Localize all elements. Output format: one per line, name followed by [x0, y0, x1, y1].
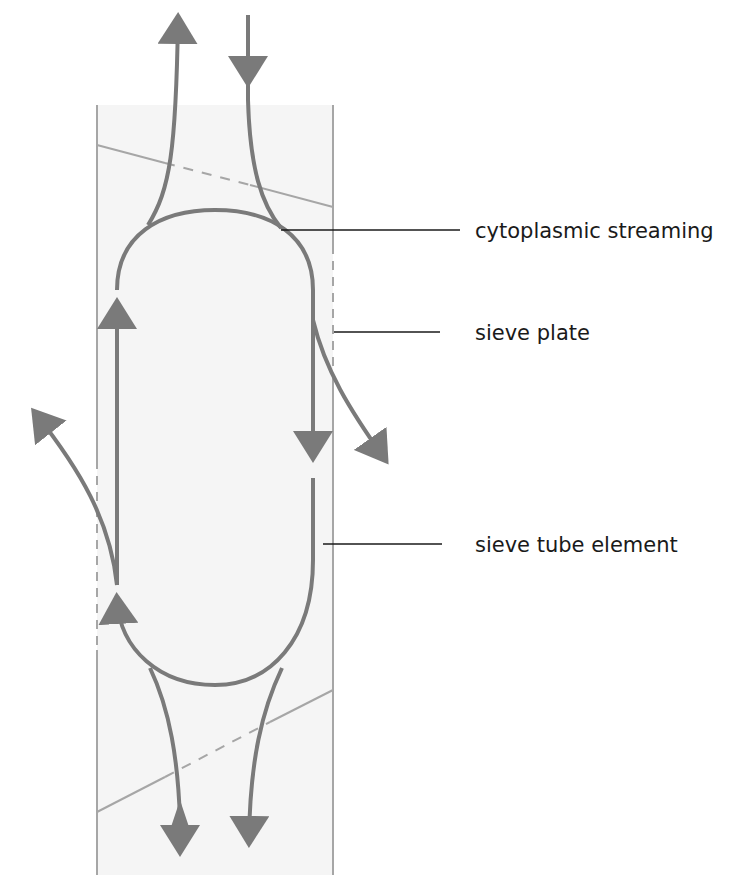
sieve-tube-diagram: cytoplasmic streaming sieve plate sieve … [0, 0, 730, 893]
tube-body [97, 105, 333, 875]
label-sieve-plate: sieve plate [475, 321, 590, 345]
label-cytoplasmic-streaming: cytoplasmic streaming [475, 219, 714, 243]
label-sieve-tube-element: sieve tube element [475, 533, 678, 557]
